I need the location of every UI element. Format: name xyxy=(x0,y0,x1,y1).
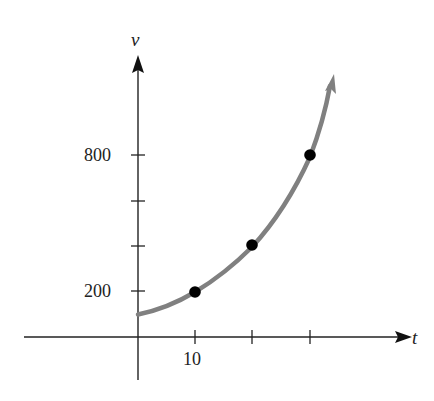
y-tick-label-800: 800 xyxy=(84,145,111,165)
chart: 10 800 200 t v xyxy=(0,0,434,401)
data-point-t30 xyxy=(304,149,316,161)
x-axis-label: t xyxy=(412,327,418,348)
data-point-t20 xyxy=(246,239,258,251)
y-axis-label: v xyxy=(131,29,140,50)
x-tick-label-10: 10 xyxy=(183,349,201,369)
exponential-curve xyxy=(138,86,330,315)
y-tick-label-200: 200 xyxy=(84,281,111,301)
data-point-t10 xyxy=(189,286,201,298)
